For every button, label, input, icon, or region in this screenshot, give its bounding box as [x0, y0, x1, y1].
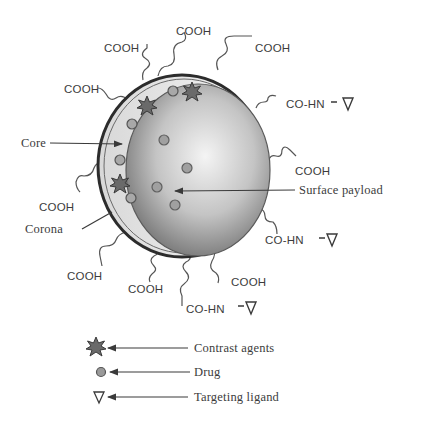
nanoparticle-diagram: COOH COOH COOH COOH CO-HN COOH CO-HN COO… [0, 0, 427, 428]
drug-icon [168, 86, 178, 96]
legend-label-drug: Drug [194, 365, 221, 379]
label-core: Core [21, 136, 46, 150]
label-cohn: CO-HN [186, 302, 225, 316]
contrast-agent-star-icon [86, 337, 106, 356]
legend-label-contrast-agents: Contrast agents [194, 341, 274, 355]
drug-icon [152, 182, 162, 192]
label-cooh: COOH [104, 41, 139, 55]
label-cohn: CO-HN [265, 233, 304, 247]
label-cohn: CO-HN [286, 97, 325, 111]
label-cooh: COOH [64, 82, 99, 96]
targeting-ligand-triangle-icon [319, 234, 337, 246]
targeting-ligand-triangle-icon [94, 392, 104, 403]
corona-leader [82, 212, 112, 229]
chain-cooh-lower-left [100, 232, 126, 266]
label-cooh: COOH [295, 164, 330, 178]
chain-cooh-top [158, 32, 186, 76]
drug-icon [127, 119, 137, 129]
chain-cooh-right [268, 147, 296, 162]
label-cooh: COOH [231, 275, 266, 289]
label-corona: Corona [25, 222, 63, 236]
drug-circle-icon [97, 368, 106, 377]
chain-cooh-left-upper [98, 88, 128, 100]
chain-cohn-bottom [180, 252, 190, 306]
chain-cooh-top-right [217, 36, 252, 70]
drug-icon [126, 193, 136, 203]
legend-label-targeting-ligand: Targeting ligand [194, 390, 279, 404]
drug-icon [159, 135, 169, 145]
diagram-canvas [0, 0, 427, 428]
chain-cohn-right-upper [256, 95, 276, 108]
drug-icon [182, 163, 192, 173]
drug-icon [115, 155, 125, 165]
label-cooh: COOH [67, 269, 102, 283]
chain-cooh-top-left [142, 44, 149, 80]
label-cooh: COOH [128, 282, 163, 296]
label-surface-payload: Surface payload [299, 183, 383, 197]
label-cooh: COOH [176, 24, 211, 38]
legend-graphics [86, 337, 190, 403]
targeting-ligand-triangle-icon [331, 98, 353, 110]
label-cooh: COOH [39, 200, 74, 214]
label-cooh: COOH [255, 41, 290, 55]
drug-icon [170, 200, 180, 210]
targeting-ligand-triangle-icon [238, 302, 256, 314]
